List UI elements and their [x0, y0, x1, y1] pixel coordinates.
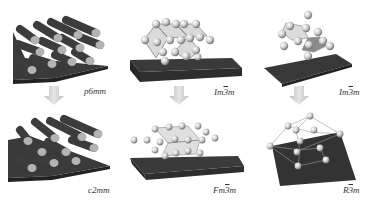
label-text: Im — [214, 87, 224, 97]
down-arrow-icon — [289, 86, 309, 105]
fcc-lattice — [130, 123, 244, 180]
down-arrow-icon — [44, 86, 64, 105]
label-text: m — [353, 87, 360, 97]
label-text: p6mm — [84, 86, 106, 96]
label-text: m — [230, 185, 237, 195]
rhombohedral-lattice — [267, 113, 356, 186]
label-text: Fm — [213, 185, 225, 195]
label-text: Im — [339, 87, 349, 97]
label-im3m-bcc: Im3m — [214, 87, 235, 97]
rod-array-c2mm — [8, 119, 110, 182]
bcc-lattice — [130, 18, 242, 82]
bcc-unit-cell — [264, 11, 352, 87]
phase-transition-figure: p6mm Im3m Im3m c2mm Fm3m R3m — [0, 0, 372, 204]
label-r3m: R3m — [343, 185, 360, 195]
label-text: m — [353, 185, 360, 195]
label-p6mm: p6mm — [84, 86, 106, 96]
label-text: c2mm — [88, 185, 110, 195]
label-im3m-cell: Im3m — [339, 87, 360, 97]
label-fm3m: Fm3m — [213, 185, 236, 195]
figure-graphics — [0, 0, 372, 204]
rod-array-p6mm — [13, 20, 108, 84]
down-arrow-icon — [169, 86, 189, 105]
label-c2mm: c2mm — [88, 185, 110, 195]
label-text: m — [228, 87, 235, 97]
